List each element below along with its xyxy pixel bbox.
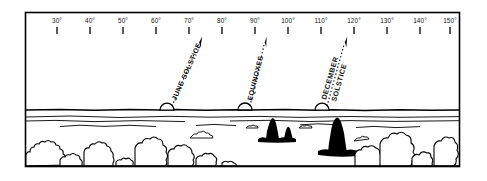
tick-label: 150° (443, 17, 457, 24)
tick-label: 80° (217, 17, 227, 24)
diagram-canvas: 30° 40° 50° 60° 70° 80° (0, 0, 487, 181)
bush-right-4 (434, 137, 458, 166)
tick-label: 90° (250, 17, 260, 24)
tick-label: 30° (52, 17, 62, 24)
tick-label: 40° (85, 17, 95, 24)
tick-label: 70° (184, 17, 194, 24)
tick-label: 140° (413, 17, 427, 24)
horizon-azimuth-figure: 30° 40° 50° 60° 70° 80° (0, 0, 487, 181)
tick-label: 50° (118, 17, 128, 24)
dark-ground-center (258, 137, 296, 143)
tick-label: 100° (281, 17, 295, 24)
tick-label: 120° (347, 17, 361, 24)
tick-label: 130° (380, 17, 394, 24)
dark-ground-right (318, 149, 358, 157)
tick-label: 60° (151, 17, 161, 24)
bush-left-4 (116, 158, 133, 166)
tick-label: 110° (314, 17, 327, 24)
